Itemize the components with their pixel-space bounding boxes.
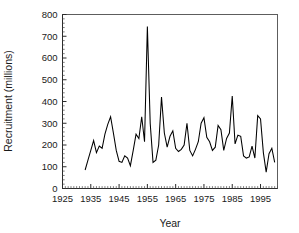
recruitment-line-series (85, 26, 275, 172)
y-tick-label: 700 (42, 31, 58, 42)
x-tick-label: 1975 (193, 193, 214, 204)
y-tick-label: 500 (42, 74, 58, 85)
y-tick-label: 800 (42, 9, 58, 20)
y-axis-title: Recruitment (millions) (2, 50, 14, 152)
x-tick-label: 1935 (80, 193, 101, 204)
recruitment-time-series-chart: 0100200300400500600700800 19251935194519… (0, 0, 299, 233)
x-axis-title: Year (159, 217, 181, 229)
y-tick-label: 300 (42, 118, 58, 129)
x-tick-label: 1985 (222, 193, 243, 204)
chart-canvas: 0100200300400500600700800 19251935194519… (0, 0, 299, 233)
plot-frame (63, 15, 278, 189)
x-tick-label: 1995 (250, 193, 271, 204)
x-tick-label: 1965 (165, 193, 186, 204)
y-tick-label: 400 (42, 96, 58, 107)
y-axis-tick-labels: 0100200300400500600700800 (42, 9, 58, 194)
x-tick-label: 1945 (109, 193, 130, 204)
y-tick-label: 600 (42, 52, 58, 63)
x-tick-label: 1955 (137, 193, 158, 204)
y-axis-ticks (63, 15, 67, 189)
y-tick-label: 200 (42, 139, 58, 150)
x-axis-ticks (63, 184, 278, 189)
x-axis-tick-labels: 19251935194519551965197519851995 (52, 193, 271, 204)
x-tick-label: 1925 (52, 193, 73, 204)
y-tick-label: 100 (42, 161, 58, 172)
